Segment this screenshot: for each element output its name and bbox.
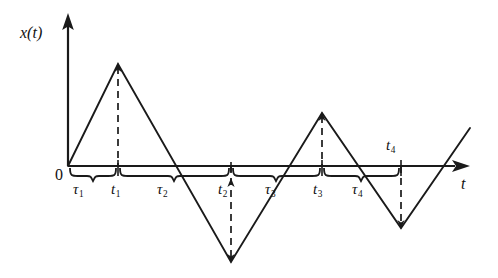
- interval-base-tau-1: τ: [73, 181, 78, 197]
- interval-base-t-1: t: [111, 181, 115, 197]
- interval-base-tau-2: τ: [157, 181, 162, 197]
- y-axis: [62, 13, 74, 166]
- interval-sub-t-3: 3: [318, 189, 323, 199]
- interval-label-tau-4: τ4: [352, 182, 362, 197]
- interval-label-t-1: t1: [111, 182, 120, 197]
- interval-label-tau-1: τ1: [73, 182, 83, 197]
- brace-tau-1: [70, 168, 116, 181]
- y-axis-label: x(t): [20, 25, 42, 41]
- brace-boundary-ticks: [118, 160, 401, 176]
- peak-sub-t-4: 4: [391, 145, 396, 155]
- waveform-figure: x(t) t 0 τ1 t1 τ2 t2 τ3 t3 τ4 t4: [0, 0, 498, 278]
- interval-sub-tau-4: 4: [358, 189, 363, 199]
- origin-label: 0: [55, 167, 63, 183]
- x-axis: [68, 160, 470, 172]
- dashed-marker-arrowheads: [114, 63, 404, 263]
- interval-braces: [70, 168, 399, 181]
- brace-t-2-tau-3: [233, 168, 320, 181]
- interval-base-t-2: t: [218, 181, 222, 197]
- waveform-canvas: [0, 0, 498, 278]
- interval-base-tau-4: τ: [352, 181, 357, 197]
- waveform-trace: [68, 64, 470, 262]
- interval-sub-tau-3: 3: [271, 189, 276, 199]
- interval-label-t-3: t3: [313, 182, 322, 197]
- interval-sub-t-1: 1: [116, 189, 121, 199]
- interval-label-tau-3: τ3: [265, 182, 275, 197]
- interval-base-t-3: t: [313, 181, 317, 197]
- interval-sub-t-2: 2: [223, 189, 228, 199]
- interval-sub-tau-1: 1: [79, 189, 84, 199]
- interval-sub-tau-2: 2: [163, 189, 168, 199]
- peak-base-t-4: t: [386, 137, 390, 153]
- peak-label-t-4: t4: [386, 138, 395, 153]
- interval-label-t-2: t2: [218, 182, 227, 197]
- brace-t-1: [120, 168, 229, 181]
- interval-base-tau-3: τ: [265, 181, 270, 197]
- interval-label-tau-2: τ2: [157, 182, 167, 197]
- x-axis-label: t: [461, 176, 465, 192]
